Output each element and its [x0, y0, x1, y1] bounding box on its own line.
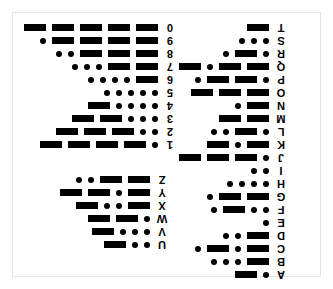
morse-symbols [176, 60, 272, 73]
chart-inner: 0987654321 TSRQPONMLKJIHGFEDCBA ZYXWVU [13, 13, 320, 276]
morse-row-label: N [274, 99, 288, 112]
morse-symbols [85, 73, 161, 86]
dash-icon [104, 241, 126, 248]
dot-icon [239, 181, 245, 187]
morse-symbols [208, 125, 272, 138]
dash-icon [60, 189, 82, 196]
dot-icon [263, 168, 269, 174]
morse-symbols [220, 229, 272, 242]
dot-icon [251, 181, 257, 187]
dot-icon [104, 90, 110, 96]
dash-icon [247, 193, 269, 200]
morse-symbols [37, 138, 161, 151]
dot-icon [120, 229, 126, 235]
dot-icon [96, 64, 102, 70]
dot-icon [116, 203, 122, 209]
dash-icon [247, 63, 269, 70]
morse-symbols [232, 99, 272, 112]
morse-row: A [176, 268, 288, 281]
morse-row: W [57, 212, 169, 225]
morse-row: H [176, 177, 288, 190]
morse-row-label: E [274, 216, 288, 229]
dash-icon [247, 258, 269, 265]
dash-icon [235, 50, 257, 57]
dot-icon [140, 90, 146, 96]
morse-row-label: R [274, 47, 288, 60]
morse-row-label: 6 [163, 73, 177, 86]
dot-icon [104, 203, 110, 209]
dash-icon [219, 115, 241, 122]
dash-icon [136, 76, 158, 83]
dot-icon [223, 259, 229, 265]
dash-icon [235, 271, 257, 278]
morse-row-label: L [274, 125, 288, 138]
morse-row: 9 [21, 34, 177, 47]
morse-row: E [176, 216, 288, 229]
morse-symbols [208, 255, 272, 268]
morse-row-label: W [155, 212, 169, 225]
dot-icon [195, 77, 201, 83]
dash-icon [88, 215, 110, 222]
morse-row: K [176, 138, 288, 151]
dash-icon [124, 141, 146, 148]
morse-row-label: A [274, 268, 288, 281]
scan-header-text [228, 0, 328, 10]
dash-icon [223, 206, 245, 213]
morse-row: T [176, 21, 288, 34]
morse-symbols [21, 21, 161, 34]
dash-icon [128, 176, 150, 183]
morse-symbols [101, 86, 161, 99]
morse-row-label: 8 [163, 47, 177, 60]
morse-row-label: 5 [163, 86, 177, 99]
morse-symbols [53, 47, 161, 60]
dash-icon [219, 193, 241, 200]
letters-a-to-t-block: TSRQPONMLKJIHGFEDCBA [176, 21, 288, 281]
chart-frame: 0987654321 TSRQPONMLKJIHGFEDCBA ZYXWVU [12, 12, 321, 277]
dot-icon [251, 207, 257, 213]
dash-icon [52, 24, 74, 31]
dash-icon [207, 154, 229, 161]
dot-icon [195, 246, 201, 252]
morse-row: J [176, 151, 288, 164]
dot-icon [56, 51, 62, 57]
dot-icon [76, 177, 82, 183]
morse-row-label: 9 [163, 34, 177, 47]
dash-icon [108, 37, 130, 44]
dot-icon [152, 90, 158, 96]
dot-icon [124, 77, 130, 83]
dot-icon [235, 142, 241, 148]
dash-icon [88, 189, 110, 196]
dot-icon [128, 90, 134, 96]
morse-row-label: 3 [163, 112, 177, 125]
morse-row: 0 [21, 21, 177, 34]
dot-icon [88, 77, 94, 83]
dot-icon [207, 194, 213, 200]
morse-row-label: Z [155, 173, 169, 186]
dash-icon [100, 115, 122, 122]
morse-symbols [204, 138, 272, 151]
dash-icon [56, 128, 78, 135]
morse-row: X [57, 199, 169, 212]
morse-symbols [208, 203, 272, 216]
dash-icon [247, 245, 269, 252]
dash-icon [235, 128, 257, 135]
morse-row: I [176, 164, 288, 177]
morse-symbols [244, 21, 272, 34]
morse-symbols [192, 242, 272, 255]
dot-icon [152, 142, 158, 148]
morse-row-label: 4 [163, 99, 177, 112]
dot-icon [128, 116, 134, 122]
morse-row: N [176, 99, 288, 112]
morse-row: M [176, 112, 288, 125]
dot-icon [223, 233, 229, 239]
dot-icon [263, 272, 269, 278]
morse-symbols [188, 86, 272, 99]
dot-icon [116, 90, 122, 96]
morse-symbols [192, 73, 272, 86]
morse-symbols [57, 186, 153, 199]
morse-row: 6 [21, 73, 177, 86]
morse-row-label: S [274, 34, 288, 47]
morse-row: 1 [21, 138, 177, 151]
morse-row-label: 7 [163, 60, 177, 73]
morse-row-label: U [155, 238, 169, 251]
